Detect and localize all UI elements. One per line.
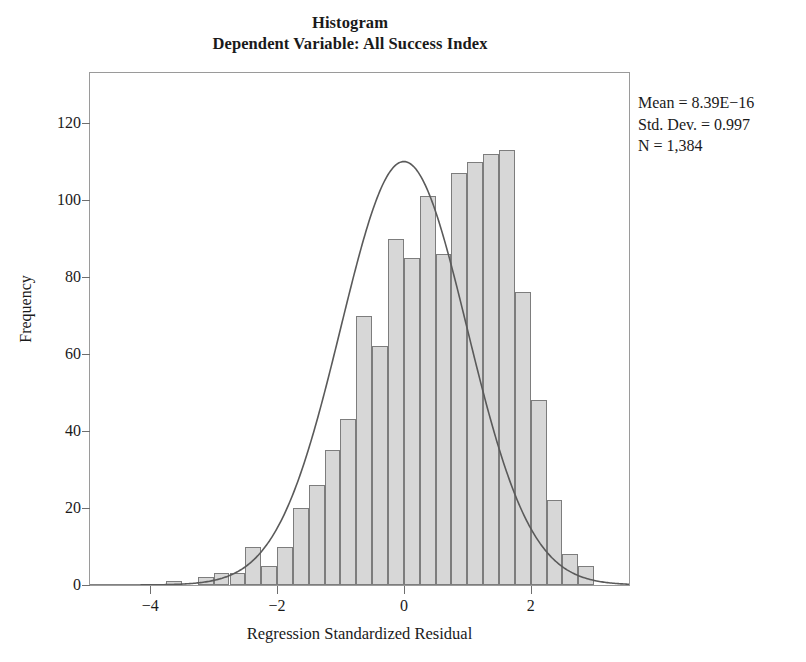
stat-std-dev: Std. Dev. = 0.997 — [638, 114, 803, 136]
histogram-bar — [230, 573, 246, 585]
y-tick-label: 40 — [37, 423, 81, 439]
y-tick-label: 120 — [37, 115, 81, 131]
y-tick-label: 20 — [37, 500, 81, 516]
histogram-bar — [420, 196, 436, 585]
histogram-bar — [198, 577, 214, 585]
y-tick-mark — [82, 431, 90, 432]
plot-inner — [90, 73, 629, 585]
y-tick-label: 0 — [37, 577, 81, 593]
y-tick-label: 100 — [37, 192, 81, 208]
page-title: Histogram — [0, 12, 700, 33]
histogram-bar — [483, 154, 499, 585]
statistics-annotation: Mean = 8.39E−16 Std. Dev. = 0.997 N = 1,… — [638, 92, 803, 157]
histogram-bar — [547, 500, 563, 585]
x-tick-label: −4 — [130, 597, 170, 615]
stat-mean: Mean = 8.39E−16 — [638, 92, 803, 114]
y-tick-mark — [82, 354, 90, 355]
x-axis-label: Regression Standardized Residual — [89, 624, 630, 644]
x-tick-label: 2 — [511, 597, 551, 615]
y-axis-label: Frequency — [17, 239, 35, 379]
histogram-bar — [261, 566, 277, 585]
histogram-bar — [293, 508, 309, 585]
histogram-bar — [531, 400, 547, 585]
histogram-bar — [388, 239, 404, 585]
y-tick-mark — [82, 123, 90, 124]
x-tick-label: −2 — [257, 597, 297, 615]
histogram-bar — [499, 150, 515, 585]
x-tick-mark — [404, 586, 405, 594]
histogram-bar — [309, 485, 325, 585]
histogram-bar — [166, 581, 182, 585]
x-tick-label: 0 — [384, 597, 424, 615]
histogram-bar — [436, 254, 452, 585]
y-axis-tick-labels: 020406080100120 — [33, 72, 81, 586]
histogram-bar — [515, 292, 531, 585]
histogram-bar — [325, 450, 341, 585]
histogram-bar — [356, 316, 372, 585]
y-tick-label: 60 — [37, 346, 81, 362]
stat-n: N = 1,384 — [638, 135, 803, 157]
x-tick-mark — [277, 586, 278, 594]
y-tick-mark — [82, 277, 90, 278]
plot-area — [89, 72, 630, 586]
histogram-bar — [340, 419, 356, 585]
chart-title-block: Histogram Dependent Variable: All Succes… — [0, 12, 700, 54]
histogram-bar — [404, 258, 420, 585]
histogram-bar — [562, 554, 578, 585]
histogram-bar — [451, 173, 467, 585]
y-tick-mark — [82, 200, 90, 201]
x-tick-mark — [531, 586, 532, 594]
histogram-bar — [214, 573, 230, 585]
chart-subtitle: Dependent Variable: All Success Index — [0, 33, 700, 54]
histogram-bar — [372, 346, 388, 585]
histogram-bar — [277, 547, 293, 585]
y-tick-mark — [82, 508, 90, 509]
histogram-bar — [578, 566, 594, 585]
y-tick-label: 80 — [37, 269, 81, 285]
x-tick-mark — [150, 586, 151, 594]
histogram-bar — [245, 547, 261, 585]
y-tick-mark — [82, 585, 90, 586]
histogram-figure: Histogram Dependent Variable: All Succes… — [0, 0, 806, 662]
histogram-bar — [467, 162, 483, 585]
